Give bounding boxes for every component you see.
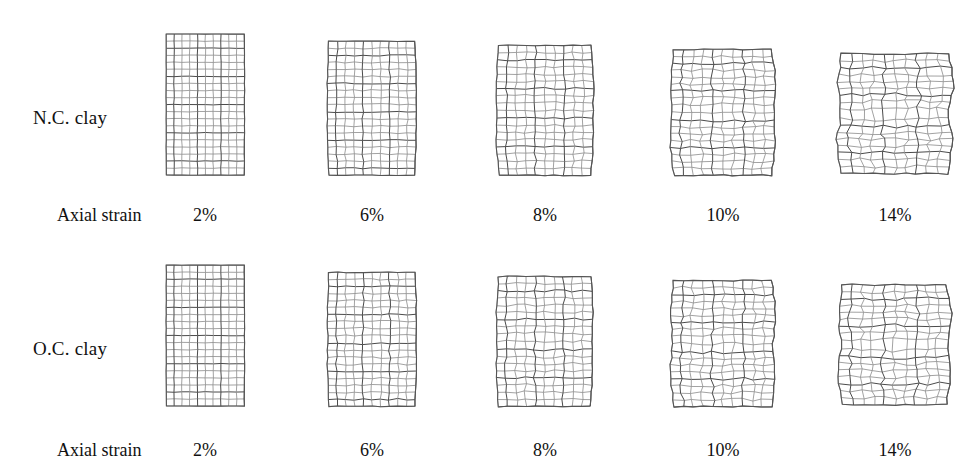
specimen-mesh-nc-clay-8pct [493,42,597,179]
specimen-mesh-oc-clay-6pct [324,269,420,410]
mesh-lines [496,45,594,176]
row-label-nc-clay: N.C. clay [33,107,107,129]
specimen-mesh-nc-clay-2pct [163,31,248,178]
mesh-lines [327,41,416,176]
specimen-mesh-nc-clay-6pct [324,38,419,179]
mesh-lines [838,284,952,405]
strain-value-oc-clay-2: 8% [505,440,585,461]
mesh-lines [496,276,593,407]
specimen-mesh-oc-clay-2pct [163,262,248,409]
specimen-mesh-oc-clay-14pct [835,281,955,408]
strain-value-oc-clay-4: 14% [855,440,935,461]
specimen-mesh-oc-clay-8pct [493,273,596,410]
specimen-mesh-nc-clay-14pct [833,50,957,177]
mesh-lines [166,265,245,406]
strain-value-nc-clay-3: 10% [683,205,763,226]
specimen-mesh-oc-clay-10pct [667,277,779,410]
strain-value-oc-clay-0: 2% [165,440,245,461]
mesh-lines [166,34,245,175]
axial-strain-label-oc-clay: Axial strain [57,440,141,461]
mesh-lines [670,49,776,176]
mesh-lines [670,280,776,407]
mesh-lines [836,53,954,174]
specimen-mesh-nc-clay-10pct [667,46,779,179]
strain-value-nc-clay-1: 6% [332,205,412,226]
mesh-lines [327,272,417,407]
row-label-oc-clay: O.C. clay [33,338,107,360]
strain-value-oc-clay-3: 10% [683,440,763,461]
strain-value-oc-clay-1: 6% [332,440,412,461]
strain-value-nc-clay-2: 8% [505,205,585,226]
strain-value-nc-clay-0: 2% [165,205,245,226]
axial-strain-label-nc-clay: Axial strain [57,205,141,226]
figure-canvas: N.C. clayAxial strain2%6%8%10%14%O.C. cl… [0,0,958,465]
strain-value-nc-clay-4: 14% [855,205,935,226]
